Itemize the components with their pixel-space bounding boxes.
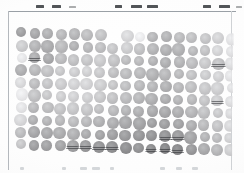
blot-spot [107, 92, 119, 104]
blot-spot [172, 144, 183, 155]
blot-spot [28, 126, 40, 138]
blot-spot [145, 93, 158, 106]
blot-spot [186, 57, 198, 69]
blot-spot [160, 81, 171, 92]
blot-spot [147, 43, 159, 55]
blot-spot [212, 32, 224, 44]
blot-spot [172, 130, 184, 142]
blot-spot [67, 128, 80, 141]
blot-spot [174, 69, 184, 79]
blot-spot [81, 129, 91, 139]
blot-spot [173, 82, 185, 94]
blot-spot [186, 70, 196, 80]
blot-spot [198, 106, 211, 119]
blot-spot [28, 102, 39, 113]
blot-spot [69, 28, 80, 39]
blot-spot [68, 91, 79, 102]
blot-spot [161, 31, 172, 42]
blot-spot [148, 56, 159, 67]
dot-blot-scan [0, 0, 244, 173]
blot-spot [120, 92, 132, 104]
blot-spot [94, 79, 107, 92]
blot-spot [29, 78, 40, 89]
blot-spot [15, 77, 26, 88]
blot-spot [106, 141, 118, 153]
blot-spot [56, 29, 67, 40]
blot-spot [160, 143, 171, 154]
blot-spot [121, 105, 132, 116]
blot-spot [29, 140, 39, 150]
blot-spot [146, 130, 158, 142]
blot-spot [213, 108, 223, 118]
blot-spot [108, 80, 118, 90]
blot-spot [108, 105, 118, 115]
blot-spot [212, 120, 224, 132]
blot-spot [55, 115, 66, 126]
blot-spot [68, 54, 80, 66]
blot-spot [199, 95, 210, 106]
blot-spot [120, 81, 130, 91]
blot-spot [95, 42, 106, 53]
blot-spot [42, 116, 52, 126]
blot-spot [198, 119, 209, 130]
blot-spot [55, 78, 67, 90]
blot-spot [28, 115, 38, 125]
blot-spot [82, 92, 93, 103]
blot-spot [200, 132, 210, 142]
blot-spot [184, 131, 197, 144]
blot-spot [80, 140, 92, 152]
blot-spot [94, 54, 106, 66]
blot-spot [81, 29, 93, 41]
blot-spot [200, 33, 212, 45]
blot-spot [159, 130, 171, 142]
blot-spot [53, 127, 65, 139]
blot-spot [147, 32, 157, 42]
blot-spot [16, 88, 28, 100]
blot-spot [185, 106, 197, 118]
blot-spot [225, 96, 237, 108]
blot-spot [146, 68, 158, 80]
blot-spot [121, 42, 132, 53]
blot-spot [67, 140, 78, 151]
blot-spot [211, 95, 222, 106]
blot-spot [55, 53, 66, 64]
blot-spot [173, 95, 183, 105]
blot-spot [121, 55, 131, 65]
blot-spot [119, 116, 131, 128]
blot-spot [198, 143, 210, 155]
spot-grid [0, 0, 244, 173]
blot-spot [15, 127, 26, 138]
blot-spot [56, 91, 66, 101]
blot-spot [134, 80, 145, 91]
blot-spot [226, 33, 238, 45]
blot-spot [224, 144, 236, 156]
blot-spot [213, 71, 224, 82]
blot-spot [42, 28, 53, 39]
blot-spot [134, 67, 146, 79]
blot-spot [94, 91, 105, 102]
blot-spot [211, 82, 224, 95]
blot-spot [172, 106, 184, 118]
blot-spot [133, 92, 145, 104]
blot-spot [134, 43, 146, 55]
blot-spot [159, 106, 171, 118]
blot-spot [68, 78, 80, 90]
blot-spot [186, 120, 197, 131]
blot-spot [120, 142, 133, 155]
blot-spot [133, 106, 144, 117]
blot-spot [95, 29, 107, 41]
blot-spot [67, 102, 79, 114]
blot-spot [211, 144, 223, 156]
blot-spot [187, 94, 198, 105]
blot-spot [16, 139, 26, 149]
blot-spot [82, 66, 93, 77]
blot-spot [41, 40, 53, 52]
blot-spot [17, 53, 27, 63]
blot-spot [212, 133, 222, 143]
blot-spot [16, 27, 26, 37]
blot-spot [147, 118, 157, 128]
blot-spot [81, 54, 93, 66]
blot-spot [107, 129, 118, 140]
blot-spot [55, 40, 68, 53]
blot-spot [29, 64, 41, 76]
